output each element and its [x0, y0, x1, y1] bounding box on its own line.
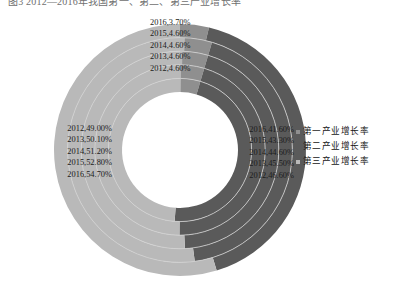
data-labels-sector1: 2016,3.70% 2015,4.60% 2014,4.60% 2013,4.…: [150, 17, 190, 74]
chart-page: 图3 2012—2016年我国第一、第二、第三产业增长率 2016,3.70% …: [0, 0, 412, 304]
data-label: 2012,49.00%: [6, 123, 112, 134]
legend-item-sector1[interactable]: 第一产业增长率: [296, 124, 370, 139]
legend-label: 第一产业增长率: [303, 124, 370, 139]
data-label: 2016,41.60%: [196, 124, 294, 135]
clipped-figure-caption: 图3 2012—2016年我国第一、第二、第三产业增长率: [0, 0, 412, 9]
legend-swatch-icon: [296, 130, 300, 134]
data-label: 2014,44.60%: [196, 147, 294, 158]
data-label: 2015,52.80%: [6, 157, 112, 168]
data-label: 2013,50.10%: [6, 134, 112, 145]
data-labels-sector2: 2016,41.60% 2015,43.30% 2014,44.60% 2013…: [196, 124, 294, 181]
data-label: 2013,4.60%: [150, 51, 190, 62]
data-label: 2012,4.60%: [150, 63, 190, 74]
legend-item-sector2[interactable]: 第二产业增长率: [296, 139, 370, 154]
legend-label: 第三产业增长率: [303, 154, 370, 169]
legend-label: 第二产业增长率: [303, 139, 370, 154]
data-label: 2016,54.70%: [6, 169, 112, 180]
legend-swatch-icon: [296, 145, 300, 149]
data-label: 2015,43.30%: [196, 135, 294, 146]
legend-swatch-icon: [296, 160, 300, 164]
data-label: 2013,45.50%: [196, 158, 294, 169]
figure-caption-text: 图3 2012—2016年我国第一、第二、第三产业增长率: [8, 0, 241, 8]
data-label: 2015,4.60%: [150, 28, 190, 39]
chart-legend: 第一产业增长率 第二产业增长率 第三产业增长率: [296, 124, 370, 170]
legend-item-sector3[interactable]: 第三产业增长率: [296, 154, 370, 169]
data-label: 2014,4.60%: [150, 40, 190, 51]
data-label: 2016,3.70%: [150, 17, 190, 28]
data-label: 2012,46.60%: [196, 170, 294, 181]
data-label: 2014,51.20%: [6, 146, 112, 157]
data-labels-sector3: 2012,49.00% 2013,50.10% 2014,51.20% 2015…: [6, 123, 112, 180]
